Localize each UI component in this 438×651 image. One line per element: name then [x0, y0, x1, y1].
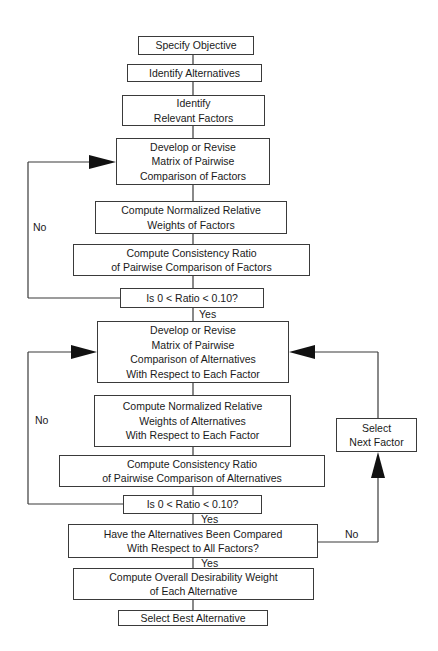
node-compute-factor-consistency: Compute Consistency Ratioof Pairwise Com… — [73, 244, 310, 276]
node-all-factors-compared-check: Have the Alternatives Been ComparedWith … — [68, 524, 318, 558]
node-text-line: Have the Alternatives Been Compared — [104, 527, 283, 542]
node-text-line: Relevant Factors — [154, 111, 233, 126]
arrow-up-icon — [371, 452, 385, 478]
node-text-line: Develop or Revise — [150, 323, 236, 338]
arrow-right-icon — [71, 345, 97, 359]
label-yes-alternative-ratio: Yes — [201, 514, 218, 525]
node-text-line: Matrix of Pairwise — [152, 154, 235, 169]
node-text-line: With Respect to Each Factor — [126, 367, 260, 382]
node-factor-ratio-check: Is 0 < Ratio < 0.10? — [120, 288, 264, 308]
node-compute-alternative-weights: Compute Normalized RelativeWeights of Al… — [94, 395, 291, 447]
node-text-line: Is 0 < Ratio < 0.10? — [147, 497, 239, 512]
node-develop-factor-matrix: Develop or ReviseMatrix of PairwiseCompa… — [116, 138, 270, 185]
node-text-line: Comparison of Factors — [140, 169, 246, 184]
label-yes-factor-ratio: Yes — [199, 309, 216, 320]
label-no-next-factor: No — [345, 529, 358, 540]
node-text-line: Compute Normalized Relative — [123, 399, 262, 414]
node-text-line: Weights of Alternatives — [139, 414, 246, 429]
ahp-flowchart: Specify ObjectiveIdentify AlternativesId… — [0, 0, 438, 651]
label-no-factor-loop: No — [33, 222, 46, 233]
node-develop-alternative-matrix: Develop or ReviseMatrix of PairwiseCompa… — [97, 321, 289, 383]
node-text-line: Weights of Factors — [147, 218, 234, 233]
node-compute-alternative-consistency: Compute Consistency Ratioof Pairwise Com… — [59, 455, 325, 487]
arrow-right-icon — [89, 155, 116, 169]
node-text-line: Compute Consistency Ratio — [127, 457, 257, 472]
node-text-line: Identify Alternatives — [149, 66, 240, 81]
node-text-line: Develop or Revise — [150, 140, 236, 155]
arrow-left-icon — [289, 345, 315, 359]
node-alternative-ratio-check: Is 0 < Ratio < 0.10? — [123, 495, 262, 514]
node-text-line: Identify — [177, 96, 211, 111]
node-text-line: Select Best Alternative — [140, 611, 245, 626]
node-specify-objective: Specify Objective — [138, 36, 254, 55]
node-text-line: Select — [362, 421, 391, 436]
node-compute-factor-weights: Compute Normalized RelativeWeights of Fa… — [95, 201, 287, 234]
node-identify-relevant-factors: IdentifyRelevant Factors — [122, 95, 265, 126]
node-text-line: Compute Consistency Ratio — [126, 246, 256, 261]
node-text-line: Is 0 < Ratio < 0.10? — [146, 291, 238, 306]
node-text-line: With Respect to All Factors? — [127, 541, 259, 556]
node-text-line: With Respect to Each Factor — [126, 428, 260, 443]
node-select-next-factor: SelectNext Factor — [336, 418, 417, 452]
node-text-line: of Pairwise Comparison of Alternatives — [102, 471, 282, 486]
node-text-line: of Each Alternative — [150, 584, 238, 599]
node-text-line: of Pairwise Comparison of Factors — [111, 260, 271, 275]
node-text-line: Matrix of Pairwise — [152, 338, 235, 353]
node-text-line: Comparison of Alternatives — [130, 352, 255, 367]
node-identify-alternatives: Identify Alternatives — [127, 64, 262, 82]
node-compute-overall-weight: Compute Overall Desirability Weightof Ea… — [73, 568, 314, 600]
node-select-best-alternative: Select Best Alternative — [118, 610, 268, 626]
node-text-line: Compute Normalized Relative — [121, 203, 260, 218]
node-text-line: Next Factor — [349, 435, 403, 450]
label-yes-all-compared: Yes — [201, 558, 218, 569]
node-text-line: Compute Overall Desirability Weight — [109, 570, 277, 585]
label-no-alternative-loop: No — [35, 415, 48, 426]
node-text-line: Specify Objective — [155, 38, 236, 53]
